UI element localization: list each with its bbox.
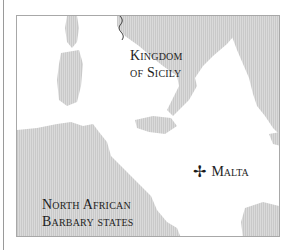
label-line: of Sicily xyxy=(130,64,183,81)
sardinia xyxy=(57,50,83,106)
label-kingdom-of-sicily: Kingdom of Sicily xyxy=(130,47,183,81)
label-malta: Malta xyxy=(211,164,248,180)
label-north-african-barbary-states: North African Barbary states xyxy=(42,196,134,230)
libya-coast xyxy=(241,202,280,237)
sicily xyxy=(135,116,177,134)
map-frame: Kingdom of Sicily ✢ Malta North African … xyxy=(16,15,280,237)
balkans xyxy=(227,16,280,136)
cross-icon: ✢ xyxy=(193,164,206,180)
malta-marker: ✢ Malta xyxy=(193,164,249,180)
label-line: North African xyxy=(42,196,134,213)
label-line: Kingdom xyxy=(130,47,183,64)
corsica xyxy=(65,16,79,48)
side-rule xyxy=(3,0,4,250)
label-line: Barbary states xyxy=(42,213,134,230)
